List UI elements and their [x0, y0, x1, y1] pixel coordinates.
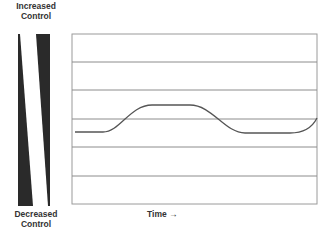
- decreased-label-line1: Decreased: [8, 209, 64, 219]
- diagram-canvas: [0, 0, 335, 240]
- x-axis-label: Time →: [147, 209, 178, 219]
- decreasing-wedge-left: [18, 34, 33, 206]
- increasing-wedge-right: [36, 34, 50, 206]
- decreased-label-line2: Control: [8, 219, 64, 229]
- decreased-control-label: Decreased Control: [8, 209, 64, 229]
